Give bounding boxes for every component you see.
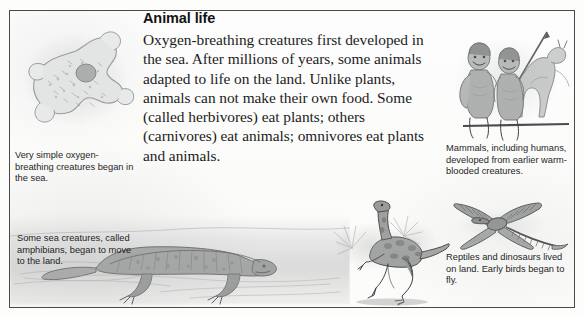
dinosaur-illustration — [330, 196, 452, 306]
caption-reptiles: Reptiles and dinosaurs lived on land. Ea… — [446, 252, 572, 287]
amoeba-illustration — [10, 11, 142, 147]
foliage-background — [332, 208, 444, 292]
early-humans-illustration — [443, 14, 573, 142]
page-title: Animal life — [143, 10, 215, 26]
body-paragraph: Oxygen-breathing creatures first develop… — [143, 30, 435, 165]
encyclopedia-page: Animal life Oxygen-breathing creatures f… — [0, 0, 585, 317]
caption-amoeba: Very simple oxygen-breathing creatures b… — [15, 150, 137, 185]
early-bird-illustration-background — [440, 196, 574, 252]
caption-mammals: Mammals, including humans, developed fro… — [446, 143, 570, 178]
amoeba-drawing — [10, 11, 142, 147]
caption-amphibians: Some sea creatures, called amphibians, b… — [17, 233, 141, 268]
early-bird-illustration — [440, 196, 574, 252]
early-humans-illustration-background — [445, 20, 571, 138]
